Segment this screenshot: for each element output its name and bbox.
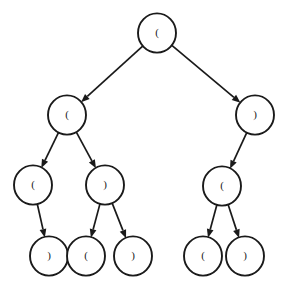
tree-node[interactable]: ( <box>67 236 105 275</box>
tree-node[interactable]: ) <box>226 236 264 275</box>
tree-edge <box>172 45 241 103</box>
edge-line <box>234 132 247 161</box>
binary-tree-diagram: (()()()()() <box>0 0 285 290</box>
tree-node[interactable]: ) <box>86 165 124 204</box>
tree-edge <box>90 203 100 237</box>
tree-node[interactable]: ( <box>203 166 241 205</box>
node-label: ( <box>155 26 159 39</box>
tree-edge <box>207 204 217 237</box>
tree-node[interactable]: ( <box>184 236 222 275</box>
node-label: ) <box>131 249 135 262</box>
tree-node[interactable]: ) <box>114 236 152 275</box>
tree-node[interactable]: ) <box>236 95 274 134</box>
tree-edge <box>112 203 126 239</box>
edge-line <box>37 204 43 230</box>
arrow-head-icon <box>230 160 237 169</box>
node-label: ( <box>201 249 205 262</box>
tree-node[interactable]: ( <box>48 95 86 134</box>
tree-node[interactable]: ( <box>14 165 52 204</box>
edge-line <box>76 132 92 161</box>
edge-line <box>210 204 217 229</box>
node-label: ( <box>65 108 69 121</box>
tree-edge <box>230 132 247 169</box>
edge-line <box>228 204 236 230</box>
edge-line <box>93 203 100 229</box>
edges-layer <box>37 45 247 238</box>
node-label: ) <box>47 249 51 262</box>
arrow-head-icon <box>89 159 96 168</box>
node-label: ) <box>253 108 257 121</box>
arrow-head-icon <box>120 229 126 238</box>
edge-line <box>87 46 143 97</box>
node-label: ( <box>84 249 88 262</box>
tree-edge <box>228 204 240 238</box>
node-label: ( <box>31 178 35 191</box>
tree-edge <box>41 132 58 168</box>
tree-edge <box>81 46 143 102</box>
tree-canvas: (()()()()() <box>0 0 285 290</box>
edge-line <box>172 45 234 97</box>
tree-edge <box>37 204 46 238</box>
node-label: ( <box>220 179 224 192</box>
tree-node[interactable]: ) <box>30 236 68 275</box>
edge-line <box>112 203 123 231</box>
node-label: ) <box>243 249 247 262</box>
tree-node[interactable]: ( <box>138 13 176 52</box>
tree-edge <box>76 132 96 169</box>
node-label: ) <box>103 178 107 191</box>
edge-line <box>45 132 59 160</box>
arrow-head-icon <box>41 159 48 168</box>
